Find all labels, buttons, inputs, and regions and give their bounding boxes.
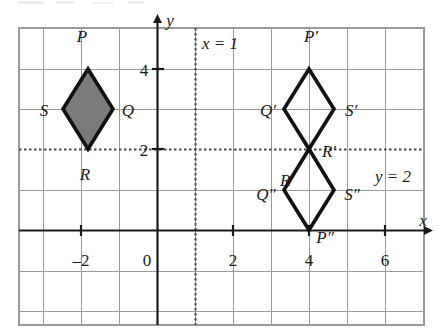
tick-y-2: 2 (140, 141, 149, 160)
label-S: S (40, 101, 49, 120)
coordinate-figure: P S Q R P′ Q′ S′ R′ R′ Q″ S″ P″ –2 0 2 4… (0, 0, 439, 334)
label-Q-prime: Q′ (260, 101, 276, 120)
coordinate-plane-svg: P S Q R P′ Q′ S′ R′ R′ Q″ S″ P″ –2 0 2 4… (0, 0, 439, 334)
y-axis (152, 14, 164, 325)
tick-y-4: 4 (140, 61, 149, 80)
tick-x-2: 2 (229, 251, 238, 270)
label-P: P (76, 27, 87, 46)
label-R-prime-lower: R′ (279, 171, 294, 190)
label-Q: Q (122, 101, 134, 120)
tick-x-6: 6 (381, 251, 390, 270)
label-P-prime: P′ (303, 27, 318, 46)
label-P-double-prime: P″ (315, 228, 334, 247)
label-R-prime-upper: R′ (321, 142, 336, 161)
equation-label-x-1: x = 1 (201, 34, 238, 53)
tick-x-4: 4 (305, 251, 314, 270)
rhombus-pqrs (63, 69, 113, 149)
tick-x-0: 0 (143, 251, 152, 270)
label-S-prime: S′ (345, 101, 358, 120)
label-Q-double-prime: Q″ (256, 185, 276, 204)
axis-label-y: y (164, 11, 174, 30)
equation-label-y-2: y = 2 (373, 167, 412, 186)
tick-x-neg2: –2 (72, 251, 90, 270)
top-edge-artifact (18, 1, 144, 4)
axis-label-x: x (418, 211, 427, 230)
x-axis (19, 225, 433, 236)
label-R: R (79, 165, 91, 184)
label-S-double-prime: S″ (344, 185, 361, 204)
